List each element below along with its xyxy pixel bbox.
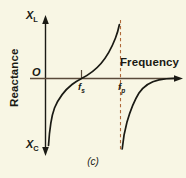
xl-subscript: L <box>33 15 38 24</box>
fp-subscript: p <box>121 87 125 94</box>
y-axis-up-arrow <box>42 15 49 24</box>
origin-label: O <box>32 67 41 78</box>
y-axis-top-symbol-XL: XL <box>26 10 38 24</box>
x-axis-right-arrow <box>174 75 183 82</box>
x-axis-title: Frequency <box>120 57 179 69</box>
y-axis <box>42 15 49 156</box>
fp-tick-label: fp <box>118 82 125 94</box>
fs-subscript: s <box>81 87 85 94</box>
fs-tick-label: fs <box>78 82 85 94</box>
figure-caption: (c) <box>0 157 186 167</box>
reactance-curve-right-branch <box>122 78 174 149</box>
reactance-vs-frequency-figure: Reactance XL XC O Frequency fs fp (c) <box>0 0 186 178</box>
y-axis-down-arrow <box>42 147 49 156</box>
y-axis-bottom-symbol-XC: XC <box>26 139 39 153</box>
y-axis-title: Reactance <box>9 38 21 118</box>
xc-subscript: C <box>33 144 38 153</box>
x-axis <box>30 75 183 82</box>
